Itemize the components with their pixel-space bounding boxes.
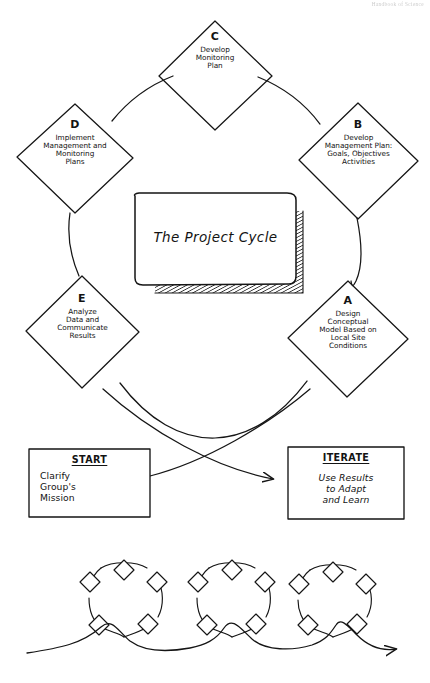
- arc-d-to-c: [112, 76, 173, 121]
- arc-b-to-a: [351, 218, 361, 286]
- diamond-a-shape: [288, 281, 408, 397]
- arc-c-to-b: [258, 77, 320, 124]
- footer-loop-1: [80, 560, 167, 637]
- diamond-c-shape: [159, 21, 272, 130]
- diamond-d-shape: [17, 104, 133, 213]
- start-box-shape: [29, 449, 150, 517]
- iterate-box-shape: [288, 447, 404, 519]
- footer-loop-2: [188, 560, 275, 637]
- footer-loop-3: [289, 562, 376, 637]
- connector-start-to-a: [150, 389, 310, 476]
- diamond-e-shape: [26, 276, 139, 388]
- arc-a-to-e: [120, 381, 307, 438]
- footer-cycles-group: [27, 560, 396, 653]
- diagram-canvas: Handbook of Science: [0, 0, 430, 683]
- arc-e-to-d: [69, 213, 79, 276]
- center-card-shape: [135, 193, 297, 285]
- diagram-vector-layer: [0, 0, 430, 683]
